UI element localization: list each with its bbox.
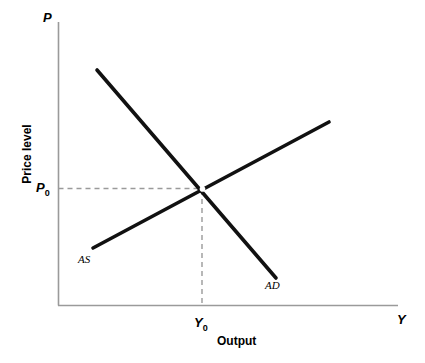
- x-axis-title: Output: [217, 335, 256, 347]
- as-curve: [93, 122, 329, 248]
- p0-tick-label: P0: [36, 181, 50, 198]
- diagram-canvas: [0, 0, 425, 363]
- y0-tick-label: Y0: [194, 316, 208, 333]
- p0-tick-subscript: 0: [45, 188, 50, 198]
- y-axis-title: Price level: [21, 121, 33, 187]
- ad-curve-label: AD: [265, 280, 280, 291]
- as-curve-label: AS: [78, 254, 90, 265]
- ad-curve: [97, 70, 276, 278]
- x-axis-symbol: Y: [397, 313, 406, 326]
- y0-tick-subscript: 0: [203, 323, 208, 333]
- y0-tick-letter: Y: [194, 315, 203, 330]
- p0-tick-letter: P: [36, 180, 45, 195]
- equilibrium-point: [200, 186, 205, 191]
- y-axis-symbol: P: [43, 11, 52, 24]
- ad-as-diagram: P Y Price level Output P0 Y0 AS AD: [0, 0, 425, 363]
